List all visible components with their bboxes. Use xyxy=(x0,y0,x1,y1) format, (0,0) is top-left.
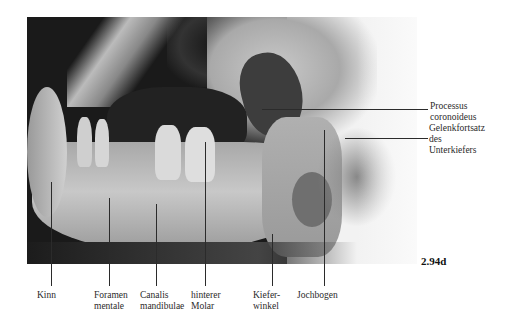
leader-canalis-mandibulae xyxy=(156,204,157,286)
label-kieferwinkel: Kiefer- winkel xyxy=(253,290,280,312)
leader-kieferwinkel xyxy=(272,234,273,286)
label-jochbogen: Jochbogen xyxy=(297,290,338,301)
leader-hinterer-molar xyxy=(205,142,206,286)
xray-fade xyxy=(357,17,417,264)
label-gelenkfortsatz: Gelenkfortsatz des Unterkiefers xyxy=(429,123,485,156)
label-foramen-mentale: Foramen mentale xyxy=(94,290,128,312)
label-kinn: Kinn xyxy=(37,290,56,301)
label-hinterer-molar: hinterer Molar xyxy=(191,290,221,312)
leader-jochbogen xyxy=(324,130,325,286)
leader-foramen-mentale xyxy=(109,198,110,286)
xray-image xyxy=(27,17,417,264)
label-processus-coronoideus: Processus coronoideus xyxy=(430,101,476,123)
leader-processus-coronoideus xyxy=(262,109,428,110)
label-canalis-mandibulae: Canalis mandibulae xyxy=(140,290,184,312)
leader-gelenkfortsatz xyxy=(345,138,428,139)
figure-number: 2.94d xyxy=(421,255,446,267)
leader-kinn xyxy=(51,182,52,286)
